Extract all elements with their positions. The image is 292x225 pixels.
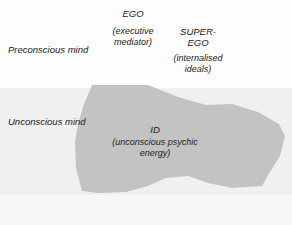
id-label: ID (96, 124, 214, 135)
preconscious-mind-label: Preconscious mind (8, 44, 88, 55)
id-description: (unconscious psychic energy) (92, 137, 218, 158)
superego-label: SUPER- EGO (166, 26, 230, 48)
ego-label: EGO (100, 8, 166, 19)
superego-description: (internalised ideals) (160, 53, 236, 74)
ego-description: (executive mediator) (96, 26, 170, 47)
unconscious-mind-label: Unconscious mind (8, 116, 86, 127)
freud-mind-diagram: Preconscious mind Unconscious mind EGO (… (0, 0, 292, 225)
